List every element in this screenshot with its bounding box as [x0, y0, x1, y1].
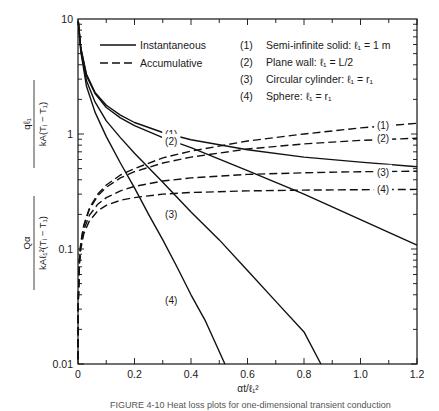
legend-accumulative-label: Accumulative — [140, 57, 203, 69]
x-axis-label: αt/ℓ₁² — [237, 383, 259, 394]
geometry-key: (1) Semi-infinite solid: ℓ₁ = 1 m (2) Pl… — [240, 39, 391, 102]
curve-label: (2) — [165, 136, 177, 147]
figure-caption: FIGURE 4-10 Heat loss plots for one-dime… — [110, 400, 391, 410]
curve-label: (2) — [377, 133, 389, 144]
x-tick-label: 0.6 — [240, 368, 255, 380]
key-id-3: (3) — [240, 73, 253, 85]
curve-label: (3) — [165, 209, 177, 220]
curve-label: (1) — [377, 120, 389, 131]
y-label-top-denominator: kA(Tᵢ − T₁) — [37, 102, 48, 146]
key-label-3: Circular cylinder: ℓ₁ = r₁ — [266, 73, 374, 85]
y-label-bottom-numerator: Qα — [21, 236, 32, 249]
x-tick-label: 0.2 — [127, 368, 142, 380]
key-label-2: Plane wall: ℓ₁ = L/2 — [266, 56, 353, 68]
key-label-4: Sphere: ℓ₁ = r₁ — [266, 90, 332, 102]
curve-labels: (1)(2)(3)(4)(1)(2)(3)(4) — [162, 118, 392, 306]
y-tick-label: 1 — [67, 128, 73, 140]
y-axis-label-bottom: Qα kAℓ₁²(Tᵢ − T₁) — [21, 196, 48, 290]
y-axis-label-top: qℓ₁ kA(Tᵢ − T₁) — [21, 80, 48, 168]
curve-label: (4) — [165, 295, 177, 306]
x-tick-label: 1.2 — [410, 368, 425, 380]
series-accumulative-4 — [78, 189, 417, 359]
y-label-bottom-denominator: kAℓ₁²(Tᵢ − T₁) — [37, 216, 48, 270]
key-id-2: (2) — [240, 56, 253, 68]
curve-label: (3) — [377, 167, 389, 178]
heat-loss-chart: 00.20.40.60.81.01.20.010.1110 (1)(2)(3)(… — [0, 0, 439, 411]
key-id-1: (1) — [240, 39, 253, 51]
x-tick-label: 1.0 — [353, 368, 368, 380]
y-tick-label: 0.01 — [53, 358, 74, 370]
y-tick-label: 10 — [61, 13, 73, 25]
key-label-1: Semi-infinite solid: ℓ₁ = 1 m — [266, 39, 391, 51]
legend-instantaneous-label: Instantaneous — [140, 39, 206, 51]
legend: Instantaneous Accumulative — [100, 39, 206, 69]
x-tick-label: 0.8 — [297, 368, 312, 380]
key-id-4: (4) — [240, 90, 253, 102]
series-accumulative-1 — [78, 123, 417, 359]
y-label-top-numerator: qℓ₁ — [21, 118, 32, 130]
y-tick-label: 0.1 — [58, 243, 73, 255]
series-accumulative-3 — [78, 171, 417, 359]
x-tick-label: 0.4 — [184, 368, 199, 380]
x-tick-label: 0 — [75, 368, 81, 380]
curve-label: (4) — [377, 184, 389, 195]
